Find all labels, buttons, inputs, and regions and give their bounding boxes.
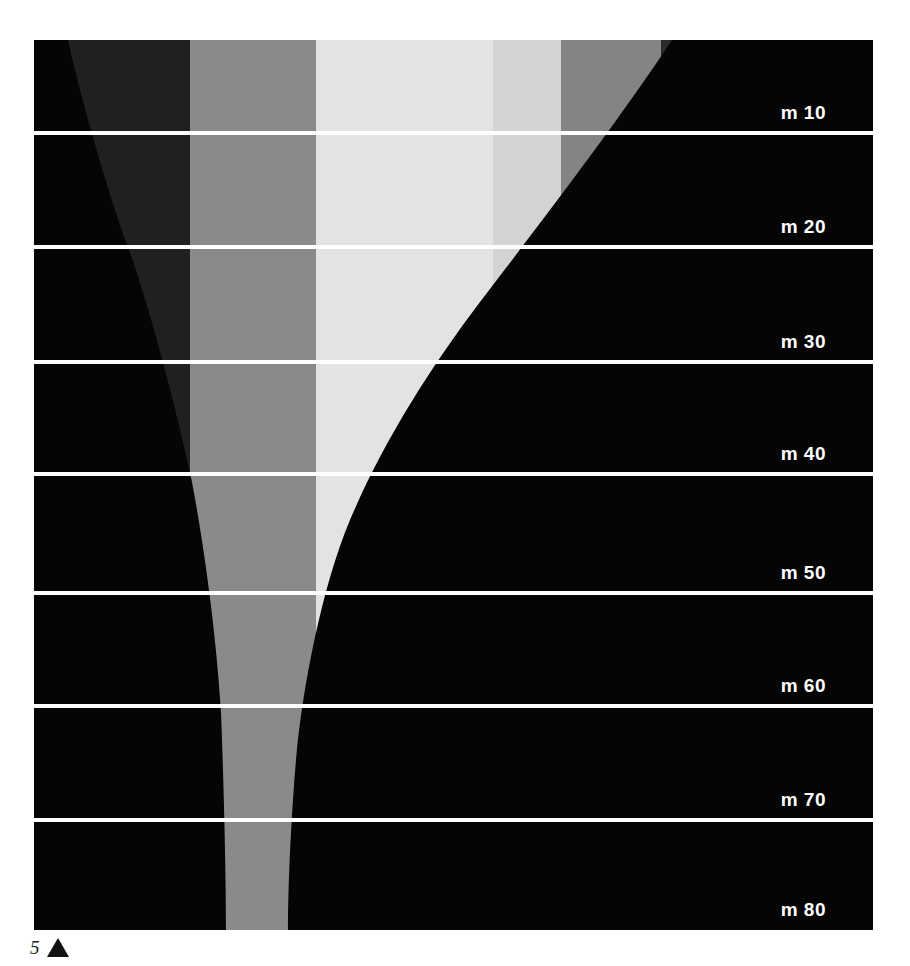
beam-profile-plate: m 10 m 20 m 30 m 40 m 50 m 60 m 70 m 80 [0, 0, 910, 966]
depth-label-m10: m 10 [781, 102, 826, 123]
depth-label-m70: m 70 [781, 789, 826, 810]
caption-number: 5 [30, 938, 40, 957]
depth-label-m80: m 80 [781, 899, 826, 920]
depth-label-m50: m 50 [781, 562, 826, 583]
up-triangle-icon [47, 938, 69, 957]
depth-label-m30: m 30 [781, 331, 826, 352]
depth-label-m40: m 40 [781, 443, 826, 464]
depth-label-m20: m 20 [781, 216, 826, 237]
figure-plate: m 10 m 20 m 30 m 40 m 50 m 60 m 70 m 80 … [0, 0, 910, 966]
depth-label-m60: m 60 [781, 675, 826, 696]
figure-caption: 5 [30, 929, 69, 966]
